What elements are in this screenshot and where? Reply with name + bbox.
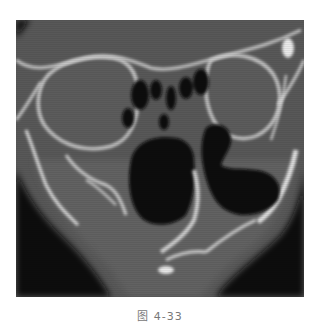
ct-scan-image <box>16 20 304 297</box>
figure-caption: 图 4-33 <box>0 307 320 323</box>
